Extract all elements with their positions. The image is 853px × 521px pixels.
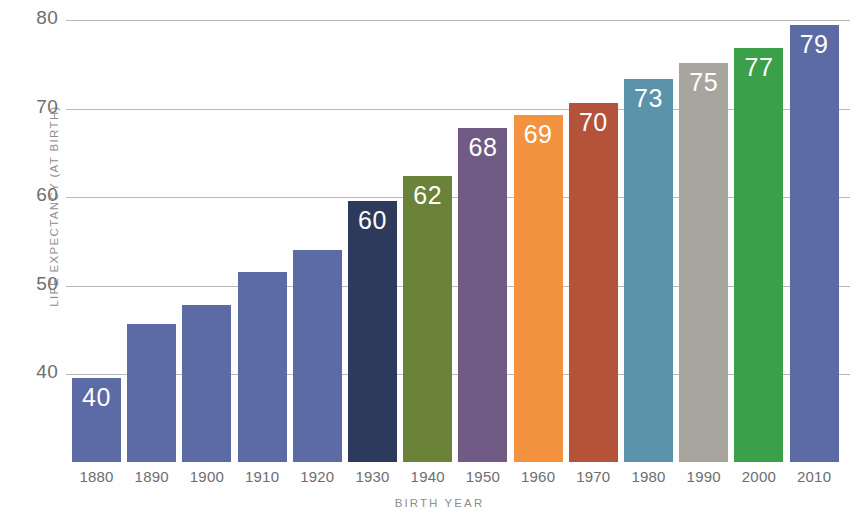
x-tick-label: 1920 [293, 468, 342, 485]
bar[interactable]: 75 [679, 63, 728, 462]
bar-value-label: 69 [514, 122, 563, 147]
bar-slot: 40 [72, 0, 121, 462]
bar-slot: 62 [403, 0, 452, 462]
bar-slot [127, 0, 176, 462]
bar-slot: 75 [679, 0, 728, 462]
x-tick-label: 1940 [403, 468, 452, 485]
bar-slot: 69 [514, 0, 563, 462]
x-tick-label: 1980 [624, 468, 673, 485]
bar-value-label: 68 [458, 135, 507, 160]
x-tick-label: 1960 [514, 468, 563, 485]
y-tick-label: 40 [14, 361, 58, 383]
y-tick-label: 50 [14, 273, 58, 295]
x-tick-label: 1930 [348, 468, 397, 485]
bar-slot: 68 [458, 0, 507, 462]
bar-slot: 70 [569, 0, 618, 462]
x-tick-label: 1900 [182, 468, 231, 485]
bar[interactable] [238, 272, 287, 462]
bar-slot [293, 0, 342, 462]
bar-value-label: 70 [569, 110, 618, 135]
x-tick-label: 1970 [569, 468, 618, 485]
y-tick-label: 60 [14, 184, 58, 206]
bar-value-label: 75 [679, 70, 728, 95]
bar-value-label: 73 [624, 86, 673, 111]
x-tick-label: 2000 [734, 468, 783, 485]
y-tick-label: 70 [14, 96, 58, 118]
bar-value-label: 40 [72, 385, 121, 410]
bar[interactable]: 73 [624, 79, 673, 462]
bar[interactable] [293, 250, 342, 462]
x-tick-label: 1950 [458, 468, 507, 485]
x-tick-label: 1890 [127, 468, 176, 485]
bar-slot [238, 0, 287, 462]
x-axis-title: BIRTH YEAR [72, 497, 807, 509]
bar-value-label: 62 [403, 183, 452, 208]
bar-slot: 77 [734, 0, 783, 462]
x-tick-label: 1910 [238, 468, 287, 485]
bar[interactable]: 79 [790, 25, 839, 462]
x-tick-label: 1990 [679, 468, 728, 485]
bar[interactable]: 40 [72, 378, 121, 462]
y-axis-tick-labels: 4050607080 [0, 0, 58, 521]
bar-slot: 79 [790, 0, 839, 462]
bar[interactable]: 69 [514, 115, 563, 462]
x-axis-tick-labels: 1880189019001910192019301940195019601970… [72, 462, 845, 492]
bar-slot [182, 0, 231, 462]
bar[interactable]: 68 [458, 128, 507, 462]
bar[interactable] [182, 305, 231, 462]
x-tick-label: 2010 [790, 468, 839, 485]
bar[interactable]: 60 [348, 201, 397, 462]
bar[interactable]: 70 [569, 103, 618, 462]
bar[interactable]: 62 [403, 176, 452, 462]
y-tick-label: 80 [14, 7, 58, 29]
bar[interactable] [127, 324, 176, 462]
x-tick-label: 1880 [72, 468, 121, 485]
bar[interactable]: 77 [734, 48, 783, 462]
bar-value-label: 79 [790, 32, 839, 57]
bar-value-label: 77 [734, 55, 783, 80]
plot-area: 40606268697073757779 [72, 0, 845, 462]
bar-slot: 73 [624, 0, 673, 462]
bar-slot: 60 [348, 0, 397, 462]
bar-value-label: 60 [348, 208, 397, 233]
life-expectancy-bar-chart: LIFE EXPECTANCY (AT BIRTH) 4050607080 40… [0, 0, 853, 521]
